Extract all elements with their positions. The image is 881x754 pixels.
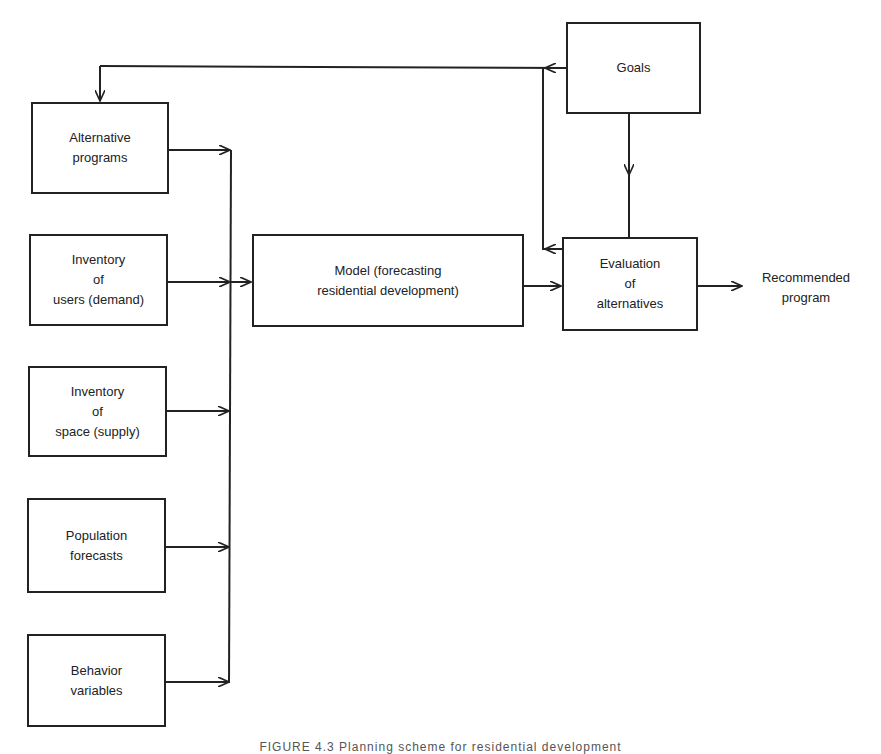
recommended-program-label: Recommended program xyxy=(748,268,864,308)
behavior-variables-label: Behavior variables xyxy=(70,661,122,701)
alternative-programs-box: Alternative programs xyxy=(31,102,169,194)
evaluation-box: Evaluation of alternatives xyxy=(562,237,698,331)
inventory-users-label: Inventory of users (demand) xyxy=(53,250,144,310)
inventory-space-label: Inventory of space (supply) xyxy=(55,382,140,442)
model-label: Model (forecasting residential developme… xyxy=(317,261,459,301)
alternative-programs-label: Alternative programs xyxy=(69,128,130,168)
inventory-users-box: Inventory of users (demand) xyxy=(29,234,168,326)
goals-label: Goals xyxy=(617,58,651,78)
model-box: Model (forecasting residential developme… xyxy=(252,234,524,327)
goals-box: Goals xyxy=(566,22,701,114)
behavior-variables-box: Behavior variables xyxy=(27,634,166,727)
population-forecasts-label: Population forecasts xyxy=(66,526,127,566)
evaluation-label: Evaluation of alternatives xyxy=(597,254,663,314)
figure-caption: FIGURE 4.3 Planning scheme for residenti… xyxy=(0,740,881,754)
inventory-space-box: Inventory of space (supply) xyxy=(28,366,167,457)
population-forecasts-box: Population forecasts xyxy=(27,498,166,593)
